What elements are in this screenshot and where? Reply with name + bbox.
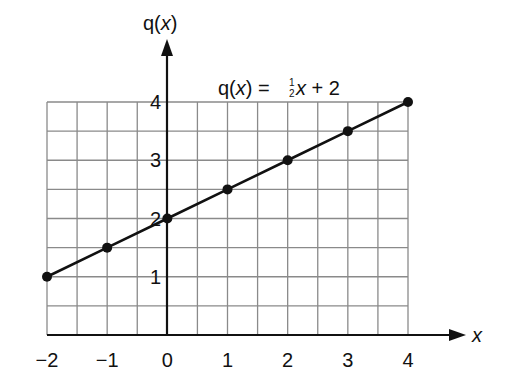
data-point — [403, 97, 413, 107]
function-graph: −2−1012341234 q(x) x q(x) = 1 2 x + 2 — [0, 0, 509, 385]
x-tick-label: 0 — [162, 349, 173, 371]
y-tick-label: 2 — [150, 208, 161, 230]
y-axis-label: q(x) — [143, 12, 177, 34]
fraction-denominator: 2 — [289, 88, 295, 99]
y-axis-arrow-icon — [161, 39, 173, 56]
y-tick-label: 3 — [150, 149, 161, 171]
data-point — [42, 272, 52, 282]
x-tick-label: 3 — [342, 349, 353, 371]
data-point — [223, 184, 233, 194]
x-axis-label: x — [471, 324, 483, 346]
data-point — [162, 214, 172, 224]
equation-label: q(x) = 1 2 x + 2 — [218, 77, 340, 99]
x-tick-label: 4 — [402, 349, 413, 371]
data-point — [283, 155, 293, 165]
tick-labels: −2−1012341234 — [36, 91, 414, 371]
x-axis-arrow-icon — [449, 329, 466, 341]
x-tick-label: −2 — [36, 349, 59, 371]
data-point — [343, 126, 353, 136]
y-tick-label: 4 — [150, 91, 161, 113]
fraction-numerator: 1 — [289, 77, 295, 88]
x-tick-label: 2 — [282, 349, 293, 371]
grid-lines — [47, 102, 408, 335]
svg-text:q(x) =: q(x) = — [218, 77, 275, 99]
data-point — [102, 243, 112, 253]
x-tick-label: 1 — [222, 349, 233, 371]
svg-text:x + 2: x + 2 — [295, 77, 340, 99]
x-tick-label: −1 — [96, 349, 119, 371]
y-tick-label: 1 — [150, 266, 161, 288]
